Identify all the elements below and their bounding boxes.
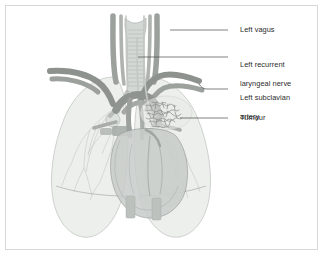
thoracic-anatomy-illustration xyxy=(0,0,325,257)
label-line-1: Left subclavian xyxy=(240,93,290,102)
label-left-vagus: Left vagus xyxy=(240,25,275,34)
label-tumour: Tumour xyxy=(240,113,266,122)
heart xyxy=(111,129,188,219)
leader-line-left-subclavian-artery xyxy=(199,84,228,89)
figure-page: Left vagus Left recurrent laryngeal nerv… xyxy=(0,0,325,257)
label-left-recurrent-laryngeal-nerve: Left recurrent laryngeal nerve xyxy=(240,51,310,88)
label-line-1: Left recurrent xyxy=(240,60,285,69)
